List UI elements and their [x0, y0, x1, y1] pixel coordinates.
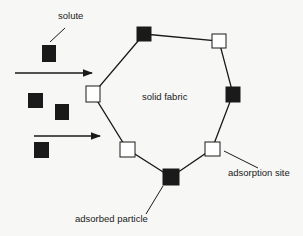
solute-particle: [34, 142, 49, 158]
adsorbed-particle-leader-line: [146, 186, 163, 214]
adsorbed-particle-node: [163, 169, 179, 185]
adsorption-site-node: [120, 142, 135, 157]
solute-particles: [28, 45, 69, 158]
solid-fabric-label: solid fabric: [142, 91, 187, 102]
solute-label: solute: [58, 10, 83, 21]
adsorbed-particle-label: adsorbed particle: [75, 213, 148, 224]
solute-particle: [42, 45, 56, 62]
fabric-nodes: [86, 27, 240, 185]
adsorption-site-node: [86, 86, 100, 102]
adsorption-site-node: [212, 34, 226, 48]
adsorption-site-node: [205, 142, 220, 156]
solute-leader-line: [50, 28, 65, 42]
adsorption-diagram: [0, 0, 303, 236]
adsorption-site-label: adsorption site: [228, 167, 290, 178]
adsorption-site-leader-line: [224, 151, 258, 168]
leader-lines: [50, 28, 258, 214]
adsorbed-particle-node: [226, 87, 240, 102]
solute-particle: [28, 93, 43, 108]
adsorbed-particle-node: [137, 27, 151, 41]
solute-particle: [55, 104, 69, 120]
